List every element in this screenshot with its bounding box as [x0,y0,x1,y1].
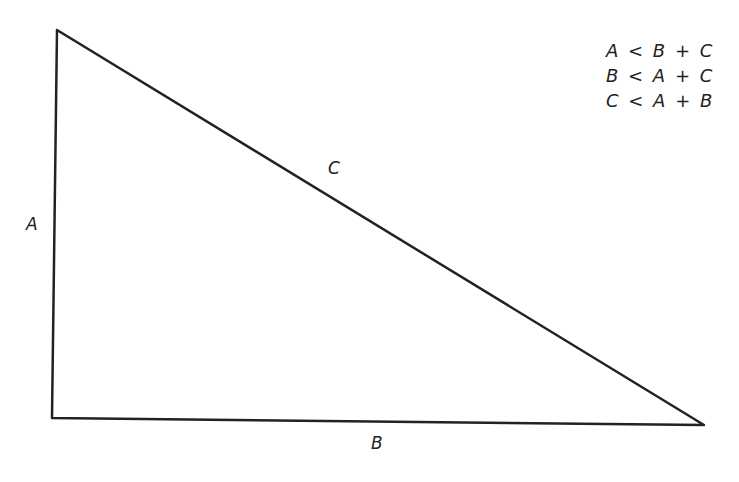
inequality-3: C < A + B [606,88,714,113]
triangle-diagram: A B C A < B + C B < A + C C < A + B [0,0,739,482]
side-label-b: B [371,433,383,453]
inequality-list: A < B + C B < A + C C < A + B [606,38,714,113]
inequality-2: B < A + C [606,63,714,88]
side-label-a: A [26,214,38,234]
side-label-c: C [328,158,340,178]
inequality-1: A < B + C [606,38,714,63]
